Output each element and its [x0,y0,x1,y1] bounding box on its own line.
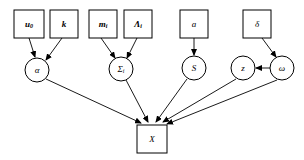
square-node-a[interactable]: a [180,10,208,38]
edge-alpha-to-X [46,79,141,123]
node-label-k: k [62,19,67,29]
graphical-model-diagram: u0kmiΛiaδXαΣiSzω [0,0,304,160]
edges-layer [29,38,277,124]
diagram-canvas: u0kmiΛiaδXαΣiSzω [0,0,304,160]
edge-k-to-alpha [46,38,62,60]
node-label-X: X [148,134,155,144]
circle-node-Sigma_i[interactable]: Σi [109,57,133,81]
edge-Sigma-to-X [126,80,148,122]
edge-u0-to-alpha [29,38,35,57]
square-node-m_i[interactable]: mi [89,10,117,38]
edge-S-to-X [156,79,187,122]
square-node-k[interactable]: k [50,10,78,38]
circle-node-z[interactable]: z [231,56,255,80]
edge-delta-to-omega [262,38,276,57]
circle-node-omega[interactable]: ω [270,56,294,80]
nodes-layer: u0kmiΛiaδXαΣiSzω [14,10,294,153]
node-label-S: S [192,63,197,73]
edge-Lambda-to-Sigma [127,38,137,58]
node-label-a: a [192,19,197,29]
square-node-Lambda_i[interactable]: Λi [124,10,152,38]
square-node-u0[interactable]: u0 [14,10,44,38]
node-label-omega: ω [279,63,285,73]
square-node-X[interactable]: X [137,125,167,153]
edge-omega-to-X [167,80,277,124]
square-node-delta[interactable]: δ [243,10,271,38]
circle-node-S[interactable]: S [182,56,206,80]
node-label-z: z [240,63,245,73]
edge-mi-to-Sigma [101,38,115,58]
node-label-alpha: α [35,65,40,75]
circle-node-alpha[interactable]: α [25,58,49,82]
